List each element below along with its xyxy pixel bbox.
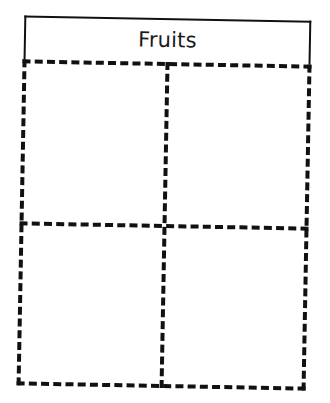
title-box: Fruits <box>24 15 312 64</box>
cell-bottom-right <box>164 228 305 387</box>
worksheet: Fruits <box>0 0 330 403</box>
worksheet-title: Fruits <box>26 25 309 54</box>
cell-bottom-left <box>21 225 163 384</box>
cell-top-left <box>24 63 166 224</box>
cell-top-right <box>167 66 308 227</box>
dashed-grid <box>17 59 312 390</box>
